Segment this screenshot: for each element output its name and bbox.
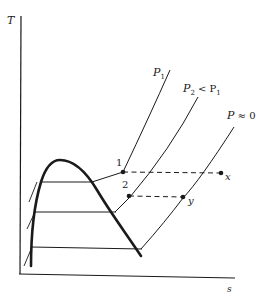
- point-label-x: x: [225, 171, 231, 182]
- isobar-label-p0: P ≈ 0: [226, 109, 256, 122]
- dashed-line-2-y: [129, 196, 183, 197]
- x-axis-label: s: [227, 284, 232, 294]
- point-1: [121, 170, 126, 175]
- point-2: [127, 194, 132, 199]
- point-label-2: 2: [122, 179, 128, 190]
- isobar-p0: [141, 127, 234, 249]
- isobar-label-p2: P2 < P1: [182, 82, 221, 97]
- x-axis: [19, 274, 235, 278]
- point-y: [181, 195, 186, 200]
- isobar-label-p1: P1: [152, 66, 165, 81]
- y-axis-label: T: [7, 14, 16, 27]
- point-label-y: y: [187, 195, 194, 206]
- tie-line-lower: [31, 247, 142, 249]
- isobar-p1: [92, 70, 170, 182]
- dashed-line-1-x: [123, 172, 221, 173]
- saturation-dome: [31, 160, 141, 266]
- ts-diagram: T s 1 x 2 y P1 P2 < P1 P ≈ 0: [0, 0, 269, 302]
- point-x: [219, 171, 224, 176]
- y-axis: [20, 16, 21, 274]
- point-label-1: 1: [116, 157, 122, 168]
